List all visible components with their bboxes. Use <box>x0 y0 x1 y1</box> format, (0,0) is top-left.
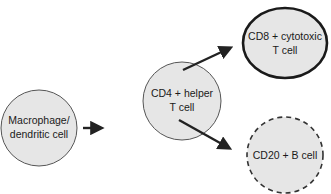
node-ellipse <box>243 8 327 78</box>
arrow-cd4-to-cd8 <box>183 48 230 70</box>
node-cd4-helper-t-cell: CD4 + helper T cell <box>143 62 221 140</box>
node-label-line1: Macrophage/ <box>8 114 69 126</box>
node-label-line1: CD4 + helper <box>151 87 214 99</box>
node-label-line2: dendritic cell <box>10 128 68 140</box>
node-label-line2: T cell <box>273 44 298 56</box>
node-label-line2: T cell <box>170 101 195 113</box>
node-label-line1: CD20 + B cell <box>253 149 318 161</box>
node-cd8-cytotoxic-t-cell: CD8 + cytotoxic T cell <box>243 8 327 78</box>
node-cd20-b-cell: CD20 + B cell <box>247 117 323 193</box>
diagram-canvas: Macrophage/ dendritic cell CD4 + helper … <box>0 0 331 194</box>
node-label-line1: CD8 + cytotoxic <box>248 30 322 42</box>
node-macrophage-dendritic-cell: Macrophage/ dendritic cell <box>1 90 77 166</box>
